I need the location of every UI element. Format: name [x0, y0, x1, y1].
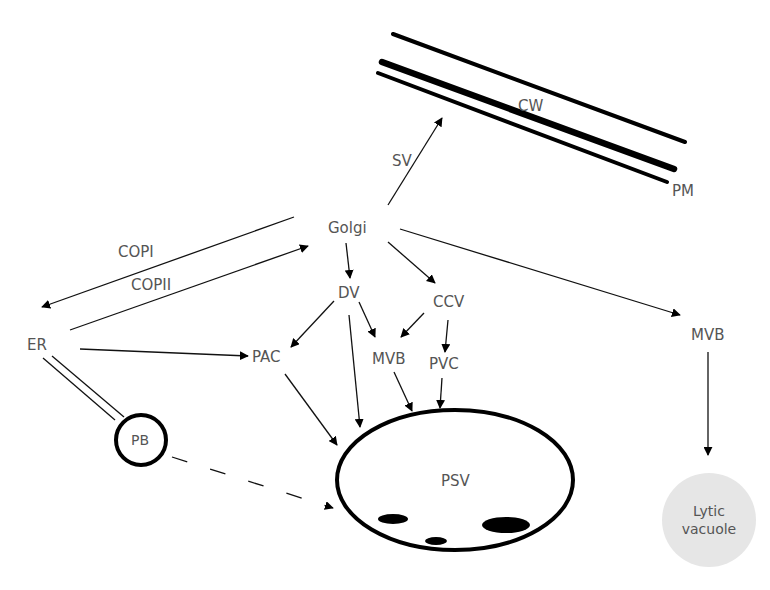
psv-inclusion-right — [482, 517, 530, 533]
mvb-center-label: MVB — [372, 350, 406, 368]
lytic-vacuole-label-line2: vacuole — [682, 521, 737, 537]
dv-label: DV — [338, 284, 360, 302]
cell-wall-inner-line — [382, 62, 674, 169]
arrow-golgi-to-dv — [346, 243, 350, 278]
arrow-pb-to-psv-dashed — [172, 457, 333, 508]
arrow-mvb-to-psv — [394, 372, 412, 411]
arrow-pac-to-psv — [285, 374, 337, 445]
arrow-dv-to-pac — [291, 301, 334, 347]
er-pb-connector-a — [43, 358, 115, 420]
arrow-copii-er-to-golgi — [70, 246, 308, 330]
copi-label: COPI — [118, 243, 154, 261]
lytic-vacuole-circle — [662, 473, 756, 567]
arrow-dv-to-psv — [349, 315, 360, 427]
mvb-right-label: MVB — [691, 326, 725, 344]
psv-label: PSV — [441, 472, 471, 490]
copii-label: COPII — [131, 276, 171, 294]
er-label: ER — [27, 336, 47, 354]
cw-label: CW — [518, 97, 543, 115]
sv-label: SV — [392, 152, 413, 170]
arrow-ccv-to-mvb — [401, 313, 424, 337]
ccv-label: CCV — [433, 293, 465, 311]
lytic-vacuole-label-line1: Lytic — [693, 503, 725, 519]
pvc-label: PVC — [429, 355, 459, 373]
arrow-ccv-to-pvc — [445, 320, 448, 352]
psv-inclusion-left — [378, 514, 408, 524]
arrow-golgi-to-ccv — [388, 242, 435, 283]
plasma-membrane-line — [378, 73, 667, 182]
pm-label: PM — [672, 182, 694, 200]
er-pb-connector-b — [52, 356, 124, 417]
pac-label: PAC — [252, 348, 281, 366]
pb-label: PB — [131, 432, 149, 448]
psv-inclusion-small — [425, 537, 447, 545]
arrow-er-to-pac — [80, 349, 248, 356]
arrow-pvc-to-psv — [440, 378, 442, 408]
golgi-label: Golgi — [328, 219, 367, 237]
arrow-dv-to-mvb — [359, 302, 375, 337]
trafficking-diagram: CW PM SV Golgi COPI COPII ER PB DV CCV M… — [0, 0, 770, 590]
